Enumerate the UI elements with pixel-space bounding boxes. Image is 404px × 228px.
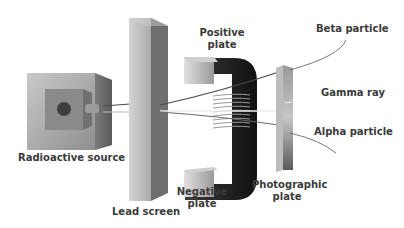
label-beta-particle: Beta particle xyxy=(316,23,389,35)
label-alpha-particle: Alpha particle xyxy=(314,126,393,138)
radioactive-source-box xyxy=(27,73,112,150)
photographic-plate xyxy=(276,65,293,172)
label-gamma-ray: Gamma ray xyxy=(321,87,385,99)
label-photographic-plate-line1: Photographic xyxy=(252,179,322,191)
electromagnet xyxy=(184,57,257,200)
label-positive-plate-line2: plate xyxy=(198,39,246,51)
particle-beams xyxy=(160,70,285,126)
label-lead-screen: Lead screen xyxy=(112,206,180,218)
label-negative-plate-line1: Negative xyxy=(176,186,228,198)
label-negative-plate: Negative plate xyxy=(176,186,228,210)
label-negative-plate-line2: plate xyxy=(176,198,228,210)
beta-beam xyxy=(160,70,285,105)
source-sample-icon xyxy=(57,102,71,116)
lead-screen xyxy=(129,18,168,201)
radiation-deflection-diagram: Radioactive source Lead screen Positive … xyxy=(0,0,404,228)
label-positive-plate-line1: Positive xyxy=(198,27,246,39)
label-radioactive-source: Radioactive source xyxy=(18,152,125,164)
label-photographic-plate-line2: plate xyxy=(252,191,322,203)
label-photographic-plate: Photographic plate xyxy=(252,179,322,203)
label-positive-plate: Positive plate xyxy=(198,27,246,51)
